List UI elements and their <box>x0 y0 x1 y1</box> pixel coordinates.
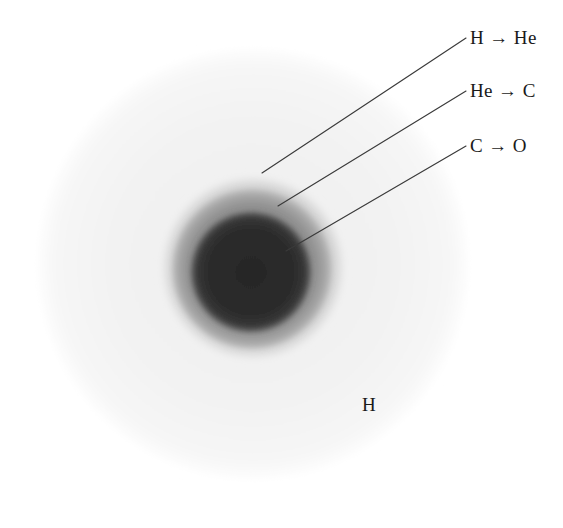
stellar-shell-diagram: H → He He → C C → O H <box>0 0 563 528</box>
label-h-to-he: H → He <box>470 27 537 48</box>
label-envelope-hydrogen: H <box>362 394 376 415</box>
label-c-to-o: C → O <box>470 135 527 156</box>
layer-carbon-burning-core <box>191 212 311 332</box>
diagram-canvas: H → He He → C C → O H <box>0 0 563 528</box>
label-he-to-c: He → C <box>470 80 536 101</box>
